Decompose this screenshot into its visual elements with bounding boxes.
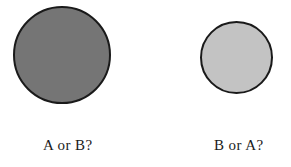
stimulus-figure: A or B? B or A?: [0, 0, 291, 167]
left-circle-caption: A or B?: [43, 136, 92, 154]
right-circle-shape: [200, 21, 273, 94]
right-circle-caption: B or A?: [214, 136, 263, 154]
left-stimulus-group: A or B?: [0, 0, 145, 167]
left-circle-shape: [13, 6, 111, 104]
right-stimulus-group: B or A?: [146, 0, 291, 167]
